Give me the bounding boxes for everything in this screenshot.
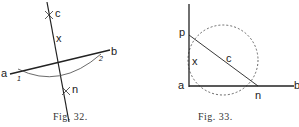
label-b: b — [294, 79, 299, 91]
label-x: x — [192, 55, 198, 67]
caption-fig-32: Fig. 32. — [53, 111, 88, 122]
label-1: 1 — [17, 75, 21, 82]
label-2: 2 — [98, 55, 103, 62]
label-p: p — [179, 26, 185, 38]
label-x: x — [56, 32, 62, 44]
figure-32: c x a b 1 2 n Fig. 32. — [1, 2, 117, 122]
label-c: c — [55, 7, 61, 19]
label-c: c — [226, 52, 232, 64]
label-a: a — [178, 79, 185, 91]
figure-33: p x c a n b Fig. 33. — [178, 4, 299, 122]
label-a: a — [1, 67, 8, 79]
diagram-canvas: c x a b 1 2 n Fig. 32. p x c a n b Fig. … — [0, 0, 299, 127]
caption-fig-33: Fig. 33. — [198, 111, 233, 122]
label-b: b — [111, 45, 117, 57]
label-n: n — [255, 89, 261, 101]
label-n: n — [72, 83, 78, 95]
hypotenuse-pn — [189, 35, 258, 86]
